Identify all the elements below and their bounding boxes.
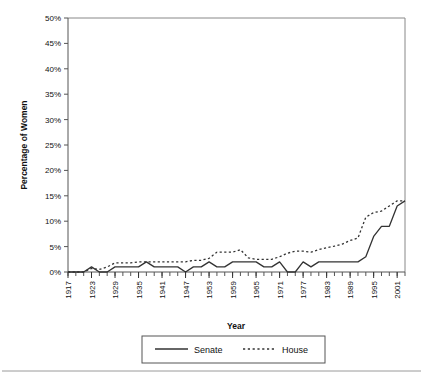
x-tick-label: 1983 — [323, 280, 332, 298]
x-tick-label: 1995 — [370, 280, 379, 298]
y-tick-label: 10% — [45, 217, 61, 226]
y-tick-label: 20% — [45, 166, 61, 175]
y-tick-label: 0% — [49, 268, 61, 277]
y-tick-label: 40% — [45, 65, 61, 74]
x-tick-label: 1977 — [299, 280, 308, 298]
chart-background — [0, 0, 423, 380]
x-axis-title: Year — [227, 321, 246, 331]
legend-label-senate: Senate — [194, 345, 223, 355]
x-tick-label: 1947 — [182, 280, 191, 298]
y-tick-label: 25% — [45, 141, 61, 150]
y-axis-title: Percentage of Women — [19, 100, 29, 189]
x-tick-label: 1941 — [158, 280, 167, 298]
y-tick-label: 15% — [45, 192, 61, 201]
x-tick-label: 1959 — [229, 280, 238, 298]
legend-label-house: House — [282, 345, 308, 355]
x-tick-label: 2001 — [393, 280, 402, 298]
x-tick-label: 1971 — [276, 280, 285, 298]
x-tick-label: 1929 — [111, 280, 120, 298]
y-tick-label: 5% — [49, 243, 61, 252]
x-tick-label: 1953 — [205, 280, 214, 298]
x-tick-label: 1989 — [346, 280, 355, 298]
y-tick-label: 30% — [45, 116, 61, 125]
y-tick-label: 50% — [45, 14, 61, 23]
y-tick-label: 35% — [45, 90, 61, 99]
x-tick-label: 1965 — [252, 280, 261, 298]
x-tick-label: 1923 — [88, 280, 97, 298]
x-tick-label: 1917 — [64, 280, 73, 298]
x-tick-label: 1935 — [135, 280, 144, 298]
chart-figure: 0%5%10%15%20%25%30%35%40%45%50% 19171923… — [0, 0, 423, 380]
y-tick-label: 45% — [45, 39, 61, 48]
